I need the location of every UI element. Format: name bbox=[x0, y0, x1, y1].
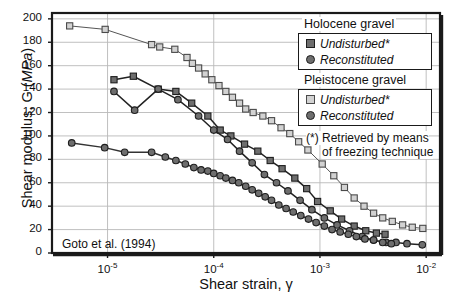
y-tick-label: 120 bbox=[12, 105, 42, 117]
legend-marker-circle-filled bbox=[306, 55, 315, 64]
legend-marker-square-open bbox=[306, 95, 315, 104]
legend-item-label: Reconstituted bbox=[320, 109, 393, 123]
legend-pleistocene-heading: Pleistocene gravel bbox=[302, 73, 408, 87]
x-tick-label: 10-5 bbox=[88, 261, 128, 275]
legend-pleistocene-row[interactable]: Undisturbed* bbox=[306, 93, 389, 107]
legend-holocene-heading: Holocene gravel bbox=[302, 17, 396, 31]
legend-pleistocene-row[interactable]: Reconstituted bbox=[306, 109, 393, 123]
legend-item-label: Reconstituted bbox=[320, 53, 393, 67]
y-tick-label: 0 bbox=[12, 245, 42, 257]
y-tick-label: 20 bbox=[12, 222, 42, 234]
y-tick-label: 40 bbox=[12, 198, 42, 210]
y-tick-label: 180 bbox=[12, 34, 42, 46]
x-tick-label: 10-4 bbox=[194, 261, 234, 275]
legend-holocene-row[interactable]: Undisturbed* bbox=[306, 37, 389, 51]
y-tick-label: 60 bbox=[12, 175, 42, 187]
x-tick-label: 10-2 bbox=[406, 261, 446, 275]
y-tick-label: 200 bbox=[12, 11, 42, 23]
legend-holocene-row[interactable]: Reconstituted bbox=[306, 53, 393, 67]
source-annotation: Goto et al. (1994) bbox=[62, 237, 155, 251]
legend-item-label: Undisturbed* bbox=[320, 37, 389, 51]
legend-footnote: of freezing technique bbox=[322, 145, 433, 159]
x-tick-label: 10-3 bbox=[300, 261, 340, 275]
legend-item-label: Undisturbed* bbox=[320, 93, 389, 107]
y-tick-label: 100 bbox=[12, 128, 42, 140]
chart-figure: Shear modulus, G (MPa) Shear strain, γ 0… bbox=[0, 0, 449, 300]
y-tick-label: 160 bbox=[12, 58, 42, 70]
legend-marker-square-filled bbox=[306, 39, 315, 48]
y-tick-label: 140 bbox=[12, 81, 42, 93]
legend-footnote: (*) Retrieved by means bbox=[306, 131, 429, 145]
y-tick-label: 80 bbox=[12, 151, 42, 163]
legend-marker-circle-filled bbox=[306, 111, 315, 120]
